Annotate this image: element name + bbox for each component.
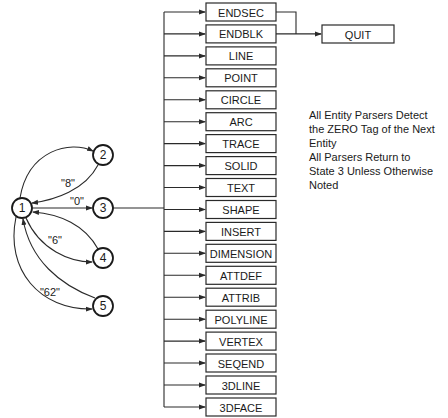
state-4-label: 4 [100,251,107,265]
edge-1-2-out [20,147,93,198]
entity-box-text: TEXT [164,179,276,197]
state-transitions [14,147,164,309]
quit-label: QUIT [345,29,372,41]
svg-text:SHAPE: SHAPE [222,204,259,216]
svg-text:SOLID: SOLID [224,160,257,172]
svg-text:TEXT: TEXT [227,182,255,194]
note-line-5: State 3 Unless Otherwise [309,164,448,178]
svg-text:CIRCLE: CIRCLE [221,94,261,106]
entity-box-point: POINT [164,69,276,87]
note-line-6: Noted [309,178,448,192]
entity-box-3dline: 3DLINE [164,376,276,394]
edge-label-0: "0" [70,195,84,207]
svg-text:ENDBLK: ENDBLK [219,28,264,40]
state-2: 2 [93,145,113,165]
entity-box-seqend: SEQEND [164,354,276,372]
svg-text:TRACE: TRACE [222,138,259,150]
state-3: 3 [93,198,113,218]
svg-text:INSERT: INSERT [221,226,261,238]
entity-box-arc: ARC [164,113,276,131]
note-line-2: the ZERO Tag of the Next [309,122,448,136]
entity-box-dimension: DIMENSION [164,244,276,262]
note-line-3: Entity [309,136,448,150]
entity-box-endsec: ENDSEC [164,3,276,21]
entity-parsers: ENDSEC ENDBLK LINE POINT CIRCLE ARC [164,3,276,416]
state-1-label: 1 [19,201,26,215]
state-1: 1 [12,198,32,218]
entity-box-line: LINE [164,47,276,65]
svg-text:ATTDEF: ATTDEF [220,270,262,282]
entity-box-shape: SHAPE [164,201,276,219]
entity-box-vertex: VERTEX [164,332,276,350]
note-line-1: All Entity Parsers Detect [309,108,448,122]
entity-box-insert: INSERT [164,222,276,240]
svg-text:LINE: LINE [229,50,253,62]
svg-text:DIMENSION: DIMENSION [210,248,272,260]
entity-box-attrib: ATTRIB [164,288,276,306]
edge-label-8: "8" [61,177,75,189]
entity-box-trace: TRACE [164,135,276,153]
parser-notes: All Entity Parsers Detect the ZERO Tag o… [309,108,448,192]
state-5-label: 5 [100,299,107,313]
state-3-label: 3 [100,201,107,215]
svg-text:POINT: POINT [224,72,258,84]
svg-text:3DFACE: 3DFACE [220,402,263,414]
svg-text:POLYLINE: POLYLINE [215,314,268,326]
state-2-label: 2 [100,148,107,162]
svg-text:3DLINE: 3DLINE [222,380,261,392]
edge-label-6: "6" [48,234,62,246]
svg-text:SEQEND: SEQEND [218,358,265,370]
svg-text:ATTRIB: ATTRIB [222,292,260,304]
entity-box-endblk: ENDBLK [164,25,276,43]
entity-box-circle: CIRCLE [164,91,276,109]
entity-parser-state-diagram: "8" "0" "6" "62" 1 2 3 4 5 ENDSEC END [0,0,448,418]
svg-text:ARC: ARC [229,116,252,128]
quit-box: QUIT [322,25,394,43]
edge-label-62: "62" [40,286,60,298]
svg-text:VERTEX: VERTEX [219,336,263,348]
entity-box-attdef: ATTDEF [164,266,276,284]
svg-text:ENDSEC: ENDSEC [218,7,264,19]
entity-box-solid: SOLID [164,157,276,175]
quit-connector [276,12,321,34]
entity-box-3dface: 3DFACE [164,398,276,416]
edge-4-1-return [33,212,98,249]
note-line-4: All Parsers Return to [309,150,448,164]
state-5: 5 [93,296,113,316]
state-4: 4 [93,248,113,268]
entity-box-polyline: POLYLINE [164,310,276,328]
